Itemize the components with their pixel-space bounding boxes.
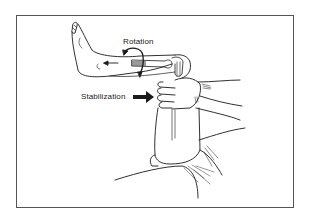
lower-leg-and-foot	[72, 22, 191, 78]
bold-right-arrow-icon	[133, 91, 154, 103]
stabilization-label: Stabilization	[81, 92, 125, 101]
knee-rotation-illustration	[0, 0, 312, 221]
rotation-label: Rotation	[123, 37, 154, 46]
examiner-hand	[157, 78, 242, 120]
thigh	[150, 108, 200, 166]
left-arrow-icon	[104, 61, 118, 65]
